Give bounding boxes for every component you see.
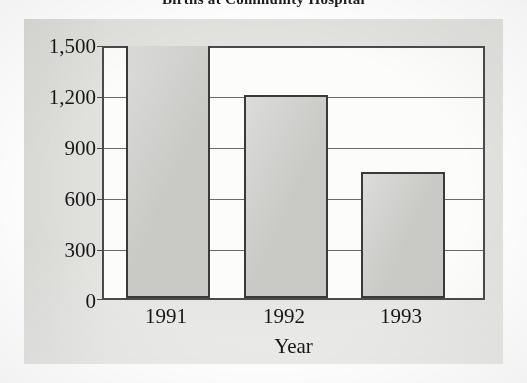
y-tick-label-0: 0 [10, 291, 96, 312]
x-tick-label-1993: 1993 [351, 306, 451, 327]
x-tick-label-1991: 1991 [116, 306, 216, 327]
y-axis: 1,500 1,200 900 600 300 0 [6, 46, 96, 300]
y-tick-label-900: 900 [10, 138, 96, 159]
bar-1992 [244, 95, 328, 298]
x-axis: 1991 1992 1993 [102, 306, 485, 334]
x-axis-title: Year [102, 336, 485, 357]
bar-1991 [126, 46, 210, 298]
chart-figure: Births at Community Hospital 1,500 1,200… [0, 0, 527, 383]
bar-1993 [361, 172, 445, 298]
y-tick-label-1500: 1,500 [10, 36, 96, 57]
plot-area [102, 46, 485, 300]
y-tick-label-300: 300 [10, 240, 96, 261]
x-tick-label-1992: 1992 [234, 306, 334, 327]
y-tick-label-1200: 1,200 [10, 87, 96, 108]
y-tick-label-600: 600 [10, 189, 96, 210]
chart-title: Births at Community Hospital [0, 0, 527, 8]
